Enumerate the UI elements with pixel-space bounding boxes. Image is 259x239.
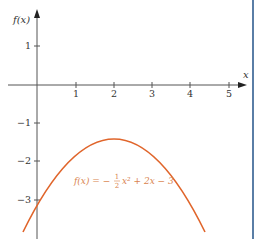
x-axis-label: x [243,69,249,80]
x-tick-label: 5 [226,88,232,99]
x-tick-label: 1 [73,88,79,99]
x-axis-arrow-icon [238,82,247,88]
x-tick-label: 4 [187,88,193,99]
function-graph: x f(x) 1 2 3 4 5 [0,0,259,239]
y-tick-label: −1 [17,117,31,128]
x-tick-label: 3 [149,88,155,99]
x-tick-label: 2 [111,88,117,99]
svg-text:1: 1 [115,173,119,181]
y-tick-label: −2 [17,155,31,166]
svg-text:x² + 2x − 3: x² + 2x − 3 [122,176,174,186]
svg-text:2: 2 [115,182,119,190]
y-axis-arrow-icon [34,9,40,18]
svg-text:f(x) = −: f(x) = − [73,176,110,186]
y-tick-label: −3 [17,194,31,205]
y-axis-label: f(x) [12,14,30,25]
y-tick-label: 1 [25,40,31,51]
x-axis: x [8,69,249,88]
equation-label: f(x) = − 1 2 x² + 2x − 3 [73,173,174,190]
panel-right-border [252,0,254,239]
